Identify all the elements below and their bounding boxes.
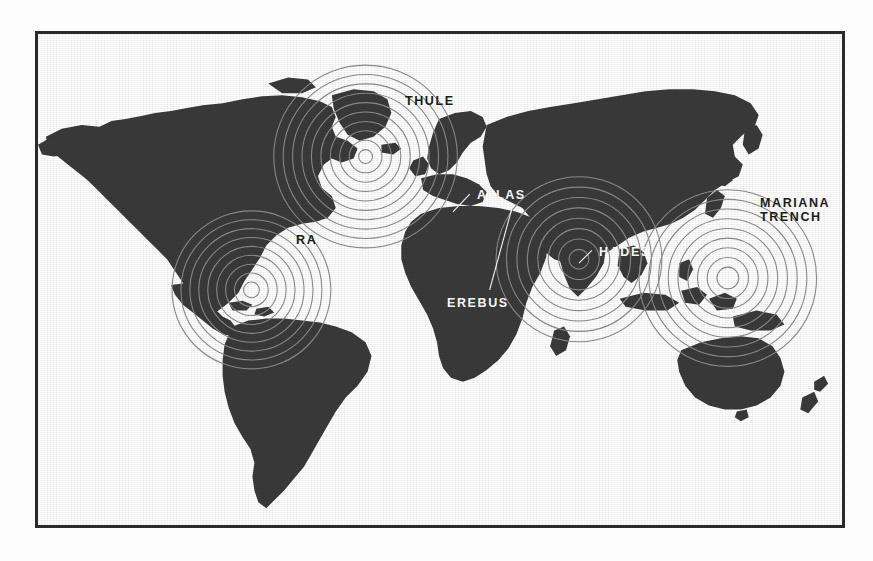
map-frame: THULERAATLASEREBUSHADESMARIANATRENCH: [35, 31, 845, 528]
world-map-illustration: [38, 34, 842, 525]
page-background: THULERAATLASEREBUSHADESMARIANATRENCH: [0, 0, 873, 561]
